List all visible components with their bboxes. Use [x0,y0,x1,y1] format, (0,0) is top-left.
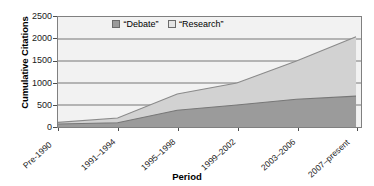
legend-swatch-debate [112,20,120,28]
x-tick-label-pre-1990: Pre-1990 [21,140,54,171]
x-tick-label-1991-1994: 1991–1994 [79,137,117,173]
legend-item-debate: “Debate” [112,19,159,29]
legend-label-debate: “Debate” [124,19,159,29]
x-tick-label-2003-2006: 2003–2006 [259,137,297,173]
legend-item-research: “Research” [168,19,224,29]
citations-area-chart: Cumulative Citations 2500 2000 1500 1000… [0,0,374,186]
legend-swatch-research [168,20,176,28]
x-tick-label-1999-2002: 1999–2002 [199,137,237,173]
legend-label-research: “Research” [179,19,224,29]
x-axis-title: Period [0,171,374,182]
chart-legend: “Debate” “Research” [112,19,224,29]
x-tick-label-1995-1998: 1995–1998 [139,137,177,173]
